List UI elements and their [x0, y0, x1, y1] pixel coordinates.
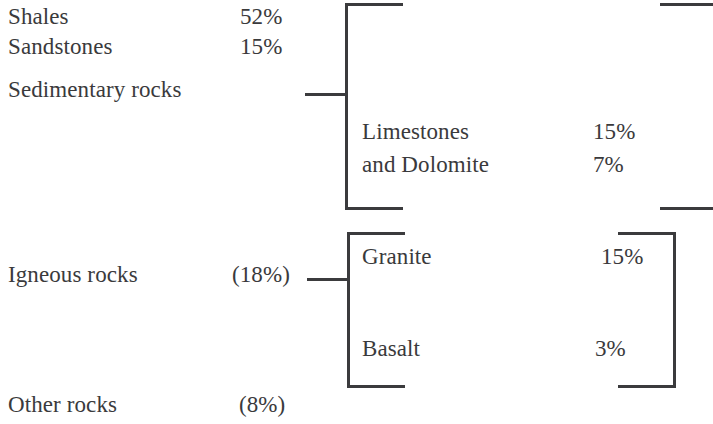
sedimentary-bracket-left-stem: [345, 3, 348, 210]
label-and-dolomite: and Dolomite: [362, 153, 489, 176]
sedimentary-connector-line: [305, 93, 348, 96]
value-and-dolomite: 7%: [593, 153, 624, 176]
label-sandstones: Sandstones: [8, 35, 113, 58]
igneous-bracket-left-stem: [347, 232, 350, 388]
label-sedimentary-rocks: Sedimentary rocks: [8, 78, 182, 101]
value-igneous-rocks: (18%): [232, 263, 290, 286]
sedimentary-bracket-right-top-arm: [660, 3, 713, 6]
label-other-rocks: Other rocks: [8, 393, 117, 416]
value-granite: 15%: [601, 245, 643, 268]
label-granite: Granite: [362, 245, 432, 268]
label-basalt: Basalt: [362, 337, 420, 360]
igneous-bracket-right-stem: [673, 232, 676, 388]
label-limestones: Limestones: [362, 120, 469, 143]
value-shales: 52%: [240, 5, 282, 28]
label-shales: Shales: [8, 5, 69, 28]
value-limestones: 15%: [593, 120, 635, 143]
diagram-canvas: Shales 52% Sandstones 15% Sedimentary ro…: [0, 0, 713, 424]
sedimentary-bracket-right-bottom-arm: [660, 207, 713, 210]
value-basalt: 3%: [595, 337, 626, 360]
sedimentary-bracket-left-bottom-arm: [345, 207, 403, 210]
value-other-rocks: (8%): [239, 393, 285, 416]
igneous-bracket-right-bottom-arm: [618, 385, 676, 388]
label-igneous-rocks: Igneous rocks: [8, 263, 138, 286]
value-sandstones: 15%: [240, 35, 282, 58]
igneous-connector-line: [307, 278, 350, 281]
igneous-bracket-right-top-arm: [618, 232, 676, 235]
igneous-bracket-left-top-arm: [347, 232, 405, 235]
igneous-bracket-left-bottom-arm: [347, 385, 405, 388]
sedimentary-bracket-left-top-arm: [345, 3, 403, 6]
